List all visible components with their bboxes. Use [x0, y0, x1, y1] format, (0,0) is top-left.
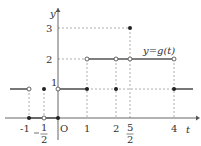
x-tick-neg-half: 1 2 [34, 122, 48, 145]
y-axis-arrow-icon [56, 8, 61, 12]
svg-text:5: 5 [127, 122, 133, 133]
x-tick-4: 4 [171, 123, 177, 134]
graph-figure: y t O 3 2 1 -1 1 2 1 2 5 2 4 y=g(t) [0, 0, 201, 146]
y-tick-3: 3 [46, 23, 52, 34]
x-tick-neg1: -1 [20, 123, 30, 134]
function-segments [10, 59, 193, 118]
x-axis-arrow-icon [196, 116, 200, 121]
step-function-graph: y t O 3 2 1 -1 1 2 1 2 5 2 4 y=g(t) [0, 0, 201, 146]
x-tick-2: 2 [113, 123, 119, 134]
y-tick-1: 1 [51, 77, 57, 88]
svg-text:1: 1 [41, 122, 47, 133]
guide-lines [29, 28, 174, 118]
x-tick-1: 1 [84, 123, 90, 134]
x-tick-5-halves: 5 2 [127, 122, 134, 145]
svg-text:2: 2 [127, 134, 133, 145]
y-axis-label: y [49, 8, 56, 19]
function-label: y=g(t) [142, 45, 175, 56]
y-tick-2: 2 [46, 54, 52, 65]
open-points [27, 57, 176, 120]
x-axis-label: t [186, 124, 191, 135]
svg-text:2: 2 [41, 134, 47, 145]
filled-points [27, 26, 176, 120]
axes [5, 8, 196, 140]
origin-label: O [60, 123, 68, 134]
